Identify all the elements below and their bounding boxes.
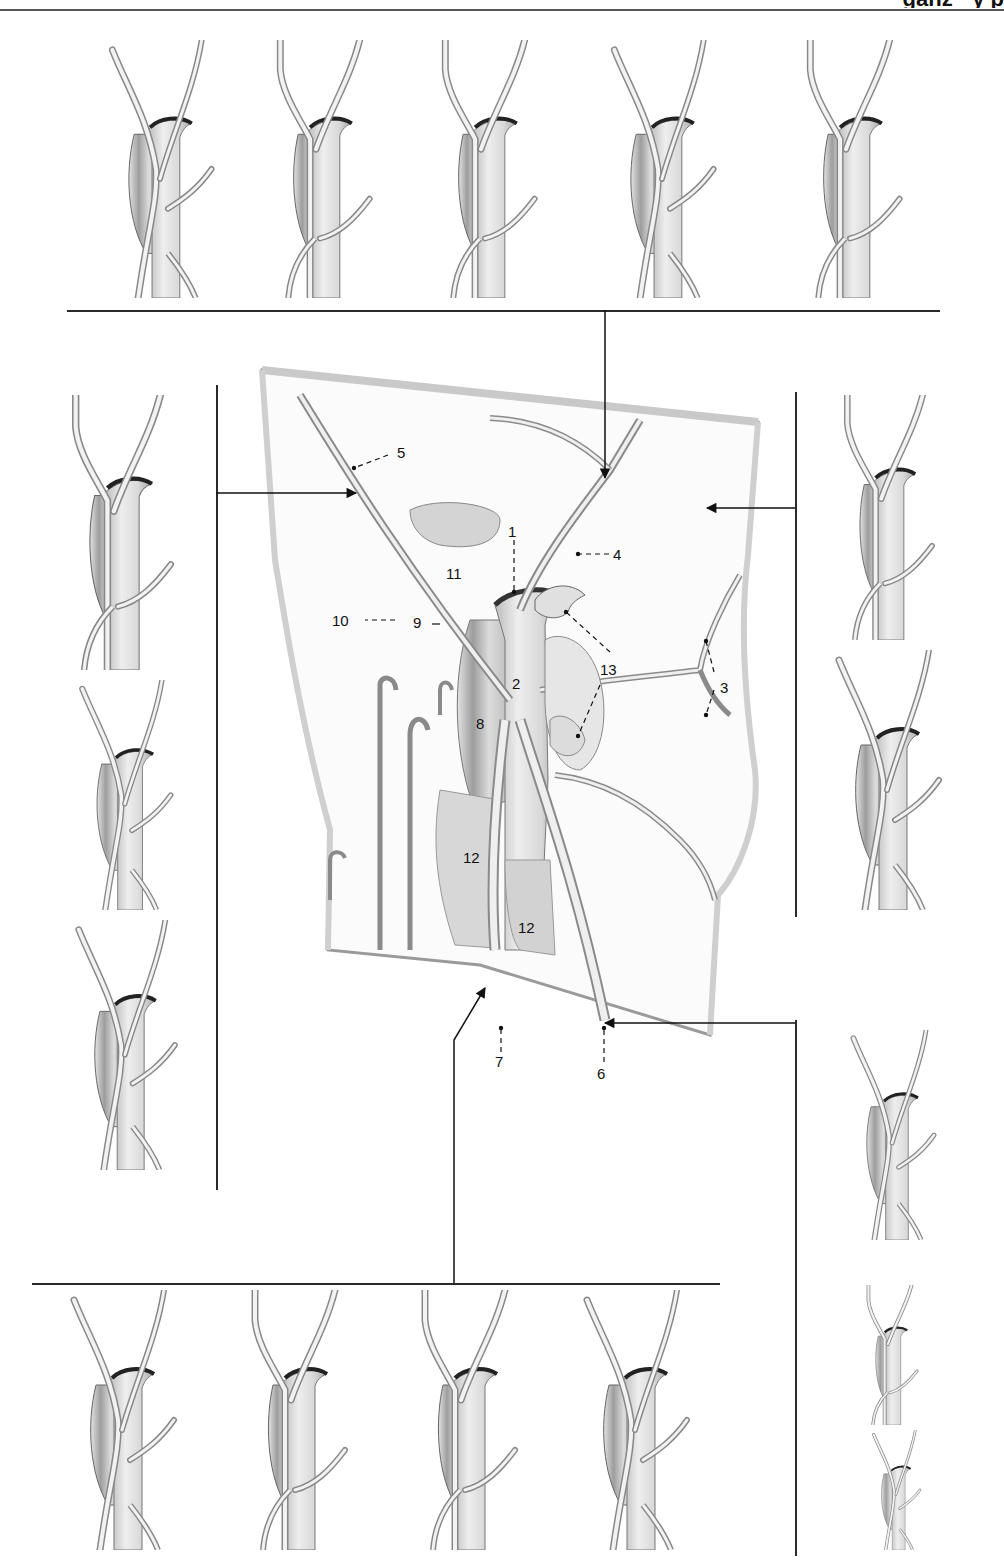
variant-left-1 [38, 395, 198, 670]
variant-right-upper-1 [800, 395, 970, 640]
variant-right-upper-2 [800, 650, 970, 910]
variant-bottom-3 [385, 1290, 545, 1550]
variant-bottom-2 [220, 1290, 370, 1550]
variant-top-2 [245, 40, 395, 298]
label-9: 9 [413, 615, 421, 630]
variant-top-3 [420, 40, 550, 298]
label-11: 11 [446, 566, 462, 581]
variant-top-1 [88, 40, 228, 298]
label-2: 2 [512, 676, 520, 691]
right-lower-group-rule [795, 1020, 797, 1556]
variant-top-4 [585, 40, 735, 298]
label-1: 1 [508, 524, 516, 539]
variant-top-5 [765, 40, 935, 298]
label-8: 8 [476, 716, 484, 731]
label-12-upper: 12 [463, 850, 480, 865]
page-header-fragment: ganz · y p [600, 0, 1004, 8]
label-12-lower: 12 [518, 920, 535, 935]
label-5: 5 [397, 445, 405, 460]
left-group-rule [216, 385, 218, 1190]
variant-left-2 [38, 680, 208, 910]
label-6: 6 [597, 1066, 605, 1081]
label-3: 3 [720, 680, 728, 695]
label-7: 7 [495, 1054, 503, 1069]
bottom-group-rule [32, 1283, 720, 1285]
label-10: 10 [332, 613, 349, 628]
variant-right-lower-3 [825, 1430, 965, 1550]
variant-bottom-4 [548, 1290, 718, 1550]
variant-right-lower-2 [815, 1285, 965, 1425]
right-upper-group-rule [795, 392, 797, 917]
header-rule [0, 9, 1004, 11]
variant-right-lower-1 [808, 1030, 973, 1240]
top-group-rule [67, 310, 940, 312]
label-13: 13 [600, 662, 617, 677]
variant-bottom-1 [40, 1290, 200, 1550]
variant-left-3 [38, 920, 208, 1170]
label-4: 4 [613, 547, 621, 562]
